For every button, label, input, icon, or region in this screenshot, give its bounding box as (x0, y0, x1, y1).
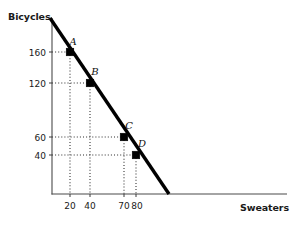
data-point-c (120, 133, 128, 141)
chart-canvas: A B C D 160 120 60 40 20 40 70 80 Bicycl… (0, 0, 299, 226)
x-tick-label-80: 80 (131, 201, 143, 211)
ppf-chart: A B C D 160 120 60 40 20 40 70 80 Bicycl… (0, 0, 299, 226)
y-tick-label-40: 40 (35, 151, 47, 161)
point-label-c: C (125, 120, 133, 131)
data-point-d (132, 151, 140, 159)
x-tick-label-20: 20 (64, 201, 76, 211)
x-axis-title: Sweaters (240, 202, 289, 213)
y-tick-label-160: 160 (29, 48, 46, 58)
point-label-b: B (90, 66, 98, 77)
y-axis-title: Bicycles (8, 11, 51, 22)
y-tick-label-60: 60 (35, 133, 47, 143)
point-label-a: A (68, 36, 76, 47)
point-label-d: D (137, 138, 146, 149)
y-tick-label-120: 120 (29, 79, 46, 89)
x-tick-label-70: 70 (118, 201, 130, 211)
x-tick-label-40: 40 (84, 201, 96, 211)
chart-background (0, 0, 299, 226)
data-point-b (86, 79, 94, 87)
data-point-a (66, 48, 74, 56)
